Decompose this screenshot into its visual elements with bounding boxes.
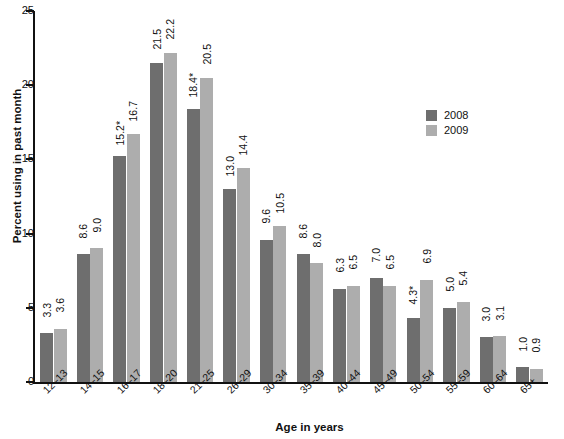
bar-chart: 0510152025 Percent using in past month 3… (0, 0, 564, 439)
bar-2009[interactable]: 14.4 (237, 168, 250, 382)
bar-value-label: 10.5 (275, 193, 286, 213)
bar-group: 7.06.5 (370, 11, 397, 382)
bar-group: 3.03.1 (480, 11, 507, 382)
bar-value-label: 5.0 (444, 277, 455, 292)
legend-label: 2008 (444, 110, 468, 121)
bar-value-label: 8.6 (298, 224, 309, 239)
legend-label: 2009 (444, 125, 468, 136)
bar-group: 21.522.2 (150, 11, 177, 382)
bar-value-label: 21.5 (151, 29, 162, 49)
bar-2009[interactable]: 8.0 (310, 263, 323, 382)
bar-2008[interactable]: 9.6 (260, 240, 273, 382)
legend-swatch (426, 125, 437, 136)
bar-group: 15.2*16.7 (113, 11, 140, 382)
legend-swatch (426, 110, 437, 121)
bar-2009[interactable]: 16.7 (127, 134, 140, 382)
bar-value-label: 1.0 (518, 337, 529, 352)
bar-2009[interactable]: 10.5 (273, 226, 286, 382)
bar-2008[interactable]: 18.4* (187, 109, 200, 382)
bar-value-label: 20.5 (201, 44, 212, 64)
bar-value-label: 3.6 (55, 298, 66, 313)
bar-value-label: 8.0 (311, 233, 322, 248)
bar-value-label: 6.9 (421, 249, 432, 264)
bar-value-label: 3.3 (41, 302, 52, 317)
bar-value-label: 22.2 (165, 19, 176, 39)
bar-2009[interactable]: 20.5 (200, 78, 213, 382)
bar-group: 4.3*6.9 (407, 11, 434, 382)
bar-value-label: 6.5 (348, 255, 359, 270)
bar-2008[interactable]: 8.6 (77, 254, 90, 382)
bar-value-label: 0.9 (531, 338, 542, 353)
bar-2009[interactable]: 22.2 (164, 53, 177, 382)
bar-group: 8.69.0 (77, 11, 104, 382)
y-axis-tick-label: 0 (12, 376, 34, 387)
bar-group: 3.33.6 (40, 11, 67, 382)
bar-value-label: 4.3* (408, 286, 419, 305)
bar-group: 1.00.9 (516, 11, 543, 382)
legend: 20082009 (426, 110, 468, 140)
plot-area: 3.33.68.69.015.2*16.721.522.218.4*20.513… (35, 11, 548, 382)
y-axis-tick-label: 25 (12, 5, 34, 16)
bar-value-label: 8.6 (78, 224, 89, 239)
y-axis-title: Percent using in past month (11, 76, 23, 256)
bar-value-label: 7.0 (371, 248, 382, 263)
legend-item[interactable]: 2009 (426, 125, 468, 136)
bar-value-label: 15.2* (115, 121, 126, 146)
bar-group: 5.05.4 (443, 11, 470, 382)
bar-value-label: 18.4* (188, 73, 199, 98)
legend-item[interactable]: 2008 (426, 110, 468, 121)
bar-value-label: 14.4 (238, 135, 249, 155)
bar-group: 13.014.4 (223, 11, 250, 382)
bar-value-label: 9.6 (261, 209, 272, 224)
bar-value-label: 9.0 (91, 218, 102, 233)
bar-2008[interactable]: 13.0 (223, 189, 236, 382)
bar-value-label: 6.3 (334, 258, 345, 273)
bar-value-label: 6.5 (385, 255, 396, 270)
bar-2009[interactable]: 9.0 (90, 248, 103, 382)
x-axis-line (33, 382, 548, 384)
bar-value-label: 13.0 (225, 156, 236, 176)
bar-value-label: 5.4 (458, 271, 469, 286)
bar-group: 8.68.0 (297, 11, 324, 382)
bar-2008[interactable]: 4.3* (407, 318, 420, 382)
bar-value-label: 3.1 (495, 305, 506, 320)
bar-group: 9.610.5 (260, 11, 287, 382)
bar-2008[interactable]: 15.2* (113, 156, 126, 382)
bar-2008[interactable]: 6.3 (333, 289, 346, 382)
bar-2008[interactable]: 8.6 (297, 254, 310, 382)
y-axis-tick-label: 5 (12, 302, 34, 313)
bar-value-label: 16.7 (128, 101, 139, 121)
bar-2008[interactable]: 21.5 (150, 63, 163, 382)
bar-2008[interactable]: 7.0 (370, 278, 383, 382)
bar-value-label: 3.0 (481, 307, 492, 322)
bar-group: 18.4*20.5 (187, 11, 214, 382)
bar-group: 6.36.5 (333, 11, 360, 382)
bar-2008[interactable]: 5.0 (443, 308, 456, 382)
x-axis-title: Age in years (0, 421, 564, 433)
